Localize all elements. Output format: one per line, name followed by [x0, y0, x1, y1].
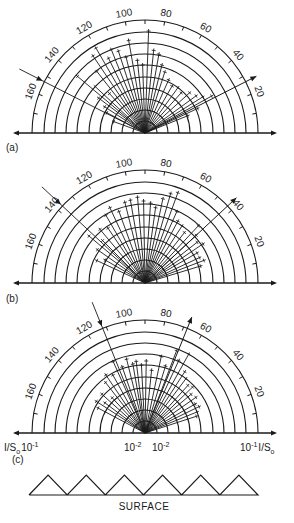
angle-tick — [39, 244, 43, 245]
ray-end-tick — [195, 396, 197, 399]
angle-tick — [200, 335, 202, 338]
axis-label-right: 10-1I/So — [240, 441, 275, 455]
ray-end-tick — [96, 248, 98, 251]
angle-tick — [106, 177, 107, 181]
surface-sawtooth — [29, 475, 258, 495]
polar-ring — [44, 32, 246, 133]
angle-tick — [164, 322, 165, 326]
angle-label: 140 — [42, 344, 61, 364]
axis-arrow-right-icon — [271, 430, 277, 435]
angle-tick — [125, 322, 126, 326]
angle-tick — [34, 413, 38, 414]
angle-label: 40 — [231, 47, 247, 63]
angle-tick — [182, 27, 183, 31]
panel-label-b: (b) — [6, 293, 18, 304]
angle-tick — [72, 46, 75, 49]
surface-label: SURFACE — [119, 501, 170, 512]
angle-label: 60 — [198, 20, 214, 35]
angle-tick — [182, 177, 183, 181]
angle-tick — [247, 394, 251, 395]
ray-end-tick — [154, 207, 158, 208]
angle-tick — [89, 185, 91, 188]
angle-tick — [228, 60, 231, 63]
axis-arrow-left-icon — [13, 430, 19, 435]
angle-tick — [89, 335, 91, 338]
angle-tick — [164, 172, 165, 176]
angle-tick — [164, 22, 165, 26]
angle-tick — [215, 196, 218, 199]
angle-tick — [39, 94, 43, 95]
angle-label: 100 — [115, 306, 134, 320]
angle-tick — [228, 210, 231, 213]
scattered-ray — [126, 55, 145, 133]
angle-label: 80 — [160, 307, 173, 320]
polar-panel-a: 16014012010080604020 — [13, 6, 277, 136]
axis-arrow-right-icon — [271, 280, 277, 285]
angle-tick — [58, 360, 61, 363]
angle-tick — [125, 22, 126, 26]
axis-label-center-left: 10-2 — [124, 441, 141, 453]
ray-end-tick — [164, 365, 168, 366]
axis-arrow-left-icon — [13, 130, 19, 135]
ray-end-tick — [161, 198, 165, 199]
angle-tick — [215, 46, 218, 49]
angle-tick — [182, 327, 183, 331]
ray-end-tick — [160, 65, 164, 66]
axis-arrow-right-icon — [271, 130, 277, 135]
angle-tick — [58, 60, 61, 63]
angle-label: 60 — [198, 170, 214, 185]
panel-label-a: (a) — [6, 142, 18, 153]
axis-label-left: I/So10-1 — [4, 441, 39, 455]
specular-arrow-icon — [187, 317, 192, 324]
angle-label: 140 — [42, 44, 61, 64]
ray-end-tick — [123, 202, 127, 203]
angle-tick — [239, 77, 242, 79]
angle-tick — [106, 327, 107, 331]
angle-tick — [34, 113, 38, 114]
ray-end-tick — [125, 359, 129, 360]
scattered-ray — [145, 96, 204, 133]
angle-label: 40 — [231, 347, 247, 363]
ray-end-tick — [128, 200, 132, 201]
angle-tick — [58, 210, 61, 213]
angle-label: 100 — [115, 6, 134, 20]
axis-label-center-right: 10-2 — [152, 441, 169, 453]
surface-profile — [29, 475, 258, 495]
scattered-ray — [76, 75, 145, 133]
angle-tick — [215, 346, 218, 349]
scattering-polar-diagram: 16014012010080604020 1601401201008060402… — [0, 0, 294, 523]
angle-label: 80 — [160, 157, 173, 170]
angle-label: 20 — [252, 234, 266, 249]
angle-tick — [89, 35, 91, 38]
angle-tick — [125, 172, 126, 176]
angle-tick — [239, 227, 242, 229]
angle-tick — [106, 27, 107, 31]
angle-label: 160 — [22, 381, 38, 401]
angle-tick — [239, 377, 242, 379]
angle-tick — [72, 196, 75, 199]
ray-end-tick — [200, 264, 201, 268]
angle-label: 100 — [115, 156, 134, 170]
angle-label: 60 — [198, 320, 214, 335]
ray-end-tick — [131, 364, 135, 365]
angle-tick — [252, 263, 256, 264]
angle-label: 160 — [22, 81, 38, 101]
angle-tick — [200, 35, 202, 38]
angle-label: 140 — [42, 194, 61, 214]
angle-tick — [252, 413, 256, 414]
angle-tick — [200, 185, 202, 188]
polar-panel-b: 16014012010080604020 — [13, 156, 277, 286]
angle-tick — [252, 113, 256, 114]
panel-label-c: (c) — [12, 454, 24, 465]
angle-tick — [47, 227, 50, 229]
angle-label: 20 — [252, 84, 266, 99]
angle-tick — [228, 360, 231, 363]
polar-panel-c: 16014012010080604020 — [13, 302, 277, 435]
angle-tick — [72, 346, 75, 349]
axis-arrow-left-icon — [13, 280, 19, 285]
angle-tick — [47, 77, 50, 79]
ray-end-tick — [169, 193, 173, 194]
angle-tick — [247, 94, 251, 95]
angle-tick — [247, 244, 251, 245]
angle-label: 20 — [252, 384, 266, 399]
